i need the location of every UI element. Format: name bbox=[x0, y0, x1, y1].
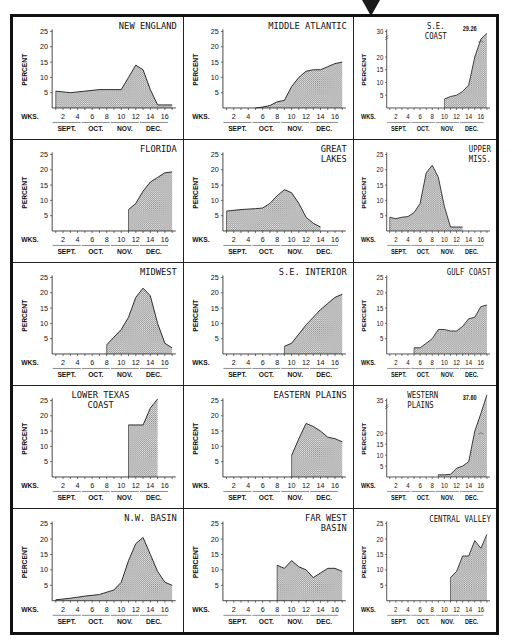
svg-text:2: 2 bbox=[61, 235, 65, 244]
svg-text:25: 25 bbox=[40, 150, 48, 159]
svg-text:WKS.: WKS. bbox=[21, 606, 39, 613]
svg-text:8: 8 bbox=[105, 358, 109, 367]
svg-text:8: 8 bbox=[105, 605, 109, 614]
svg-text:14: 14 bbox=[465, 113, 472, 121]
svg-text:20: 20 bbox=[377, 289, 384, 297]
svg-text:14: 14 bbox=[317, 235, 325, 244]
svg-text:25: 25 bbox=[40, 519, 48, 528]
chart-panel-lower-texas-coast: 510152025PERCENTWKS.246810121416SEPT.OCT… bbox=[13, 386, 184, 509]
area-series bbox=[414, 305, 487, 354]
svg-text:DEC.: DEC. bbox=[465, 493, 479, 501]
svg-text:SEPT.: SEPT. bbox=[228, 618, 247, 625]
svg-text:10: 10 bbox=[40, 319, 48, 328]
svg-text:16: 16 bbox=[331, 112, 339, 121]
svg-text:8: 8 bbox=[275, 481, 279, 490]
svg-text:WKS.: WKS. bbox=[21, 482, 39, 489]
svg-text:12: 12 bbox=[302, 605, 310, 614]
svg-text:OCT.: OCT. bbox=[88, 248, 103, 255]
svg-text:16: 16 bbox=[331, 358, 339, 367]
svg-text:8: 8 bbox=[431, 359, 435, 367]
svg-text:10: 10 bbox=[40, 565, 48, 574]
svg-text:OCT.: OCT. bbox=[417, 493, 430, 501]
svg-text:5: 5 bbox=[44, 88, 48, 97]
area-series bbox=[390, 165, 463, 231]
svg-text:5: 5 bbox=[380, 581, 384, 589]
svg-text:OCT.: OCT. bbox=[88, 125, 103, 132]
svg-text:8: 8 bbox=[431, 606, 435, 614]
area-series bbox=[450, 534, 486, 600]
svg-text:NOV.: NOV. bbox=[117, 125, 133, 132]
area-series bbox=[277, 561, 342, 601]
svg-text:PERCENT: PERCENT bbox=[192, 54, 199, 86]
svg-text:SEPT.: SEPT. bbox=[228, 371, 247, 378]
chart-panel-western-plains: 510152035PERCENTWKS.246810121416SEPT.OCT… bbox=[354, 386, 496, 509]
svg-text:10: 10 bbox=[441, 236, 448, 244]
svg-text:8: 8 bbox=[105, 112, 109, 121]
svg-text:8: 8 bbox=[431, 113, 435, 121]
svg-text:6: 6 bbox=[90, 112, 94, 121]
svg-text:25: 25 bbox=[377, 274, 384, 282]
svg-text:15: 15 bbox=[377, 66, 384, 74]
svg-text:WKS.: WKS. bbox=[21, 236, 39, 243]
svg-text:PERCENT: PERCENT bbox=[192, 545, 199, 578]
svg-text:12: 12 bbox=[132, 112, 140, 121]
svg-text:2: 2 bbox=[394, 113, 398, 121]
svg-text:DEC.: DEC. bbox=[146, 494, 162, 501]
svg-text:15: 15 bbox=[40, 58, 48, 67]
svg-text:PERCENT: PERCENT bbox=[21, 176, 28, 209]
svg-text:NOV.: NOV. bbox=[117, 494, 133, 501]
chart-panel-new-england: 510152025PERCENTWKS.246810121416SEPT.OCT… bbox=[13, 17, 184, 140]
svg-text:6: 6 bbox=[261, 605, 265, 614]
svg-text:10: 10 bbox=[211, 442, 219, 451]
svg-text:OCT.: OCT. bbox=[259, 248, 274, 255]
chart-title: N.W. BASIN bbox=[124, 513, 177, 523]
svg-text:10: 10 bbox=[211, 73, 219, 82]
svg-text:14: 14 bbox=[317, 605, 325, 614]
svg-text:DEC.: DEC. bbox=[316, 125, 332, 132]
svg-text:OCT.: OCT. bbox=[259, 125, 274, 132]
svg-text:14: 14 bbox=[146, 481, 154, 490]
svg-text:15: 15 bbox=[211, 427, 219, 436]
svg-text:14: 14 bbox=[146, 605, 154, 614]
svg-text:5: 5 bbox=[215, 88, 219, 97]
svg-text:10: 10 bbox=[441, 482, 448, 490]
svg-text:NOV.: NOV. bbox=[117, 371, 133, 378]
svg-text:8: 8 bbox=[275, 235, 279, 244]
svg-text:6: 6 bbox=[418, 359, 422, 367]
svg-text:10: 10 bbox=[377, 196, 384, 204]
chart-panel-midwest: 510152025PERCENTWKS.246810121416SEPT.OCT… bbox=[13, 263, 184, 386]
svg-text:DEC.: DEC. bbox=[465, 370, 479, 378]
svg-text:10: 10 bbox=[288, 358, 296, 367]
svg-text:20: 20 bbox=[40, 411, 48, 420]
svg-text:20: 20 bbox=[377, 53, 384, 61]
svg-text:15: 15 bbox=[377, 440, 384, 448]
peak-value-annotation: 29.26 bbox=[463, 25, 477, 33]
svg-text:10: 10 bbox=[117, 235, 125, 244]
svg-text:SEPT.: SEPT. bbox=[57, 618, 76, 625]
chart-panel-upper-miss: 510152025PERCENTWKS.246810121416SEPT.OCT… bbox=[354, 140, 496, 263]
svg-text:SEPT.: SEPT. bbox=[228, 494, 247, 501]
chart-panel-middle-atlantic: 510152025PERCENTWKS.246810121416SEPT.OCT… bbox=[184, 17, 354, 140]
svg-text:OCT.: OCT. bbox=[417, 370, 430, 378]
svg-text:4: 4 bbox=[76, 481, 80, 490]
area-series bbox=[129, 399, 158, 477]
chart-title: MISS. bbox=[469, 153, 491, 164]
svg-text:5: 5 bbox=[380, 212, 384, 220]
svg-text:8: 8 bbox=[275, 358, 279, 367]
svg-text:14: 14 bbox=[146, 358, 154, 367]
svg-text:WKS.: WKS. bbox=[21, 359, 39, 366]
svg-text:SEPT.: SEPT. bbox=[57, 371, 76, 378]
svg-text:WKS.: WKS. bbox=[361, 359, 376, 367]
svg-text:NOV.: NOV. bbox=[441, 493, 454, 501]
svg-text:5: 5 bbox=[380, 91, 384, 99]
svg-text:4: 4 bbox=[406, 482, 410, 490]
chart-title: MIDWEST bbox=[140, 267, 178, 277]
svg-text:14: 14 bbox=[146, 235, 154, 244]
svg-text:20: 20 bbox=[377, 429, 384, 437]
svg-text:12: 12 bbox=[302, 235, 310, 244]
svg-text:5: 5 bbox=[215, 211, 219, 220]
chart-panel-eastern-plains: 510152025PERCENTWKS.246810121416SEPT.OCT… bbox=[184, 386, 354, 509]
svg-text:DEC.: DEC. bbox=[146, 618, 162, 625]
svg-text:DEC.: DEC. bbox=[465, 617, 479, 625]
svg-text:30: 30 bbox=[377, 28, 384, 36]
